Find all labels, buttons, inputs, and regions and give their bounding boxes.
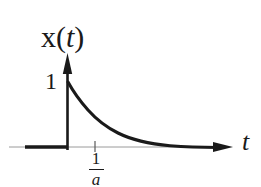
- amplitude-value-label: 1: [45, 69, 57, 93]
- y-axis-label-open-paren: (: [56, 20, 66, 53]
- y-axis-label: x(t): [41, 22, 84, 52]
- y-axis-label-function: x: [41, 20, 56, 53]
- plot-canvas: [0, 0, 261, 187]
- exponential-decay-figure: x(t) 1 t 1 a: [0, 0, 261, 187]
- fraction-numerator: 1: [84, 150, 108, 168]
- tick-label-1-over-a: 1 a: [84, 150, 108, 187]
- exponential-decay-curve: [68, 82, 218, 148]
- x-axis-label: t: [242, 129, 249, 155]
- x-axis-arrowhead: [63, 53, 72, 74]
- fraction-denominator: a: [84, 171, 108, 187]
- y-axis-label-close-paren: ): [74, 20, 84, 53]
